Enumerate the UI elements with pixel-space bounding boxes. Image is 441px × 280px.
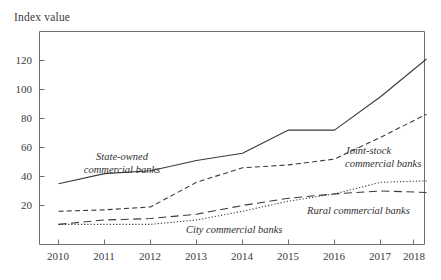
x-tick-label-2012: 2012: [130, 250, 170, 262]
y-tick-label-100: 100: [6, 83, 32, 95]
y-tick-label-20: 20: [6, 199, 32, 211]
series-annotation-state-owned-line2: commercial banks: [74, 164, 170, 177]
x-tick-label-2015: 2015: [268, 250, 308, 262]
series-annotation-state-owned: State-owned commercial banks: [74, 151, 170, 176]
chart-page: Index value: [0, 0, 441, 280]
y-tick-label-40: 40: [6, 170, 32, 182]
series-paths: [59, 59, 427, 224]
series-annotation-joint-stock: Joint-stock commercial banks: [345, 145, 421, 170]
line-chart-canvas: [0, 0, 441, 280]
y-tick-label-60: 60: [6, 141, 32, 153]
x-tick-label-2016: 2016: [314, 250, 354, 262]
series-annotation-rural: Rural commercial banks: [307, 205, 410, 218]
series-line-city: [59, 181, 427, 225]
y-tick-label-120: 120: [6, 54, 32, 66]
x-tick-label-2011: 2011: [84, 250, 124, 262]
series-annotation-joint-stock-line1: Joint-stock: [345, 145, 421, 158]
x-tick-label-2010: 2010: [38, 250, 78, 262]
x-tick-label-2014: 2014: [222, 250, 262, 262]
x-tick-label-2018: 2018: [394, 250, 434, 262]
y-tick-label-80: 80: [6, 112, 32, 124]
x-axis-ticks: [59, 240, 414, 245]
series-annotation-city: City commercial banks: [186, 224, 282, 237]
y-axis-ticks: [40, 61, 45, 206]
x-tick-label-2013: 2013: [176, 250, 216, 262]
series-annotation-joint-stock-line2: commercial banks: [345, 158, 421, 171]
series-annotation-state-owned-line1: State-owned: [74, 151, 170, 164]
